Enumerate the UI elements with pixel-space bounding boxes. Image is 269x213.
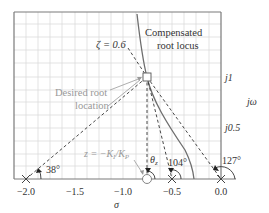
zeta-label: ζ = 0.6 xyxy=(96,39,126,51)
svg-text:−1.0: −1.0 xyxy=(114,186,132,197)
svg-text:0.0: 0.0 xyxy=(215,186,228,197)
svg-text:−0.5: −0.5 xyxy=(163,186,181,197)
jomega-axis-label: jω xyxy=(245,96,257,107)
svg-text:−1.5: −1.5 xyxy=(66,186,84,197)
x-tick-labels: −2.0 −1.5 −1.0 −0.5 0.0 xyxy=(17,186,227,197)
angle-arcs xyxy=(38,167,235,179)
angle-vectors xyxy=(26,48,221,179)
theta-z-label: θz xyxy=(150,154,158,167)
desired-root-marker xyxy=(143,73,151,81)
j05-label: j0.5 xyxy=(223,122,240,133)
compensated-label-line1: Compensated xyxy=(145,27,203,38)
desired-label-line1: Desired root xyxy=(55,87,107,98)
desired-label-line2: location xyxy=(75,100,110,111)
compensated-label-line2: root locus xyxy=(157,40,199,51)
zero-marker xyxy=(143,175,152,184)
j1-label: j1 xyxy=(223,72,233,83)
root-locus-diagram: Compensated root locus ζ = 0.6 Desired r… xyxy=(0,0,269,213)
sigma-axis-label: σ xyxy=(114,199,120,210)
angle-104-label: 104° xyxy=(168,157,187,168)
svg-text:−2.0: −2.0 xyxy=(17,186,35,197)
angle-127-label: 127° xyxy=(222,155,241,166)
angle-38-label: 38° xyxy=(46,164,60,175)
